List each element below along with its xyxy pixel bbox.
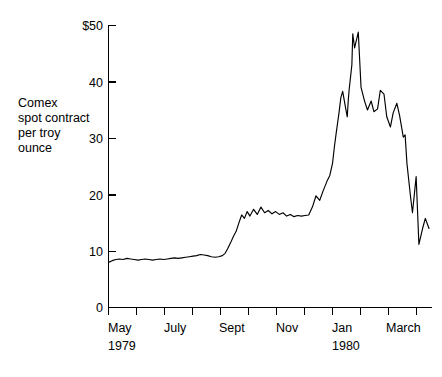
- x-tick-label-nov: Nov: [276, 321, 299, 335]
- y-axis-caption-line-4: ounce: [18, 141, 52, 155]
- x-tick-label-may: May: [108, 321, 132, 335]
- y-tick-label-50: $50: [82, 19, 103, 33]
- x-tick-label-sept: Sept: [219, 321, 245, 335]
- y-tick-label-40: 40: [89, 76, 103, 90]
- x-year-label-1979: 1979: [108, 339, 136, 353]
- x-tick-label-july: July: [164, 321, 187, 335]
- y-tick-label-10: 10: [89, 245, 103, 259]
- y-axis-caption-line-3: per troy: [18, 126, 61, 140]
- y-tick-label-20: 20: [89, 189, 103, 203]
- y-tick-label-0: 0: [96, 301, 103, 315]
- y-axis-caption-line-2: spot contract: [18, 111, 90, 125]
- silver-price-line-chart: $50 40 30 20 10 0 Comex spot contract pe…: [0, 0, 442, 377]
- x-year-label-1980: 1980: [332, 339, 360, 353]
- y-axis-caption-line-1: Comex: [18, 96, 58, 110]
- chart-page: $50 40 30 20 10 0 Comex spot contract pe…: [0, 0, 442, 377]
- x-tick-label-jan: Jan: [332, 321, 352, 335]
- y-tick-label-30: 30: [89, 132, 103, 146]
- x-tick-label-march: March: [386, 321, 421, 335]
